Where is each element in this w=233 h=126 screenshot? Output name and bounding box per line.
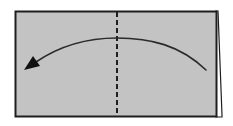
fold-diagram: [0, 0, 233, 126]
